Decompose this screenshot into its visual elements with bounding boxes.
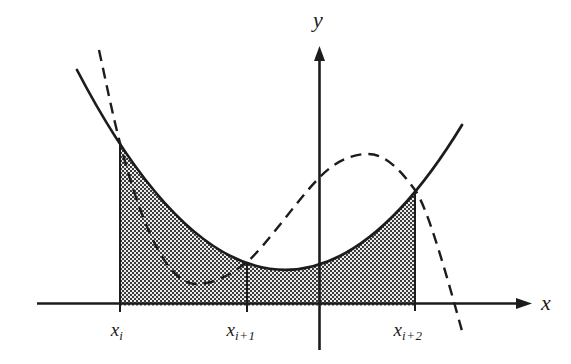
y-axis-label: y: [313, 9, 323, 31]
tick-label-xi: xi: [111, 320, 124, 342]
tick-label-xi1: xi+1: [227, 320, 256, 342]
y-axis-arrowhead: [314, 46, 325, 61]
x-axis-label: x: [541, 292, 551, 314]
tick-label-xi2: xi+2: [394, 320, 423, 342]
tick-label-xi-sub: i: [119, 328, 123, 343]
simpson-rule-figure: y x xi xi+1 xi+2: [0, 0, 571, 364]
x-axis-arrowhead: [516, 298, 532, 309]
tick-label-xi1-sub: i+1: [235, 328, 255, 343]
diagram-canvas: [0, 0, 571, 364]
tick-label-xi2-sub: i+2: [402, 328, 422, 343]
shaded-region: [120, 143, 415, 306]
